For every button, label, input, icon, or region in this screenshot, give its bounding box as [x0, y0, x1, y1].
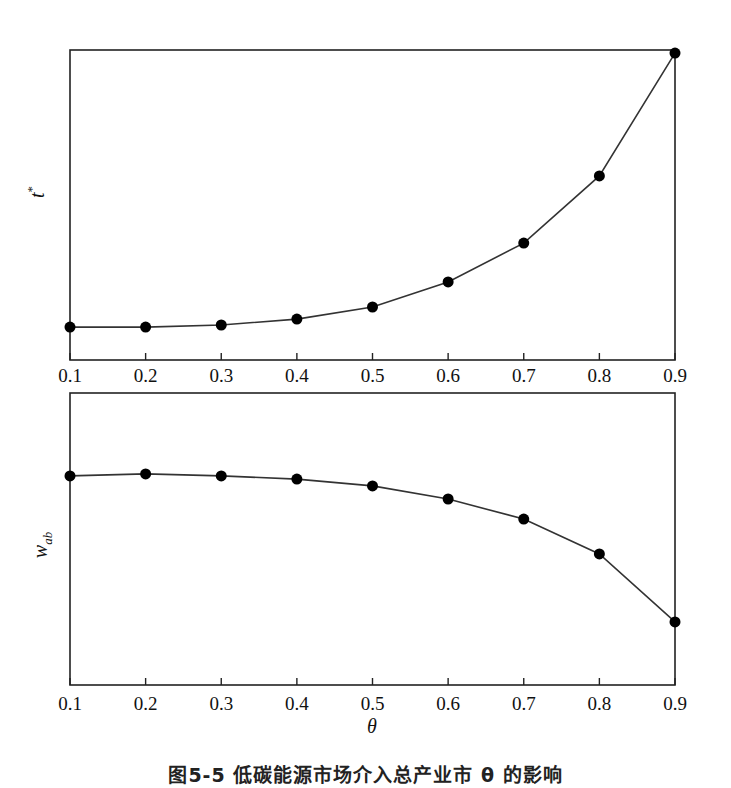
- data-point: [594, 170, 605, 181]
- x-tick-label: 0.8: [588, 693, 612, 714]
- data-point: [443, 276, 454, 287]
- x-axis-label: θ: [367, 715, 377, 737]
- data-point: [216, 470, 227, 481]
- data-point: [140, 468, 151, 479]
- x-tick-labels: 0.10.20.30.40.50.60.70.80.9: [58, 693, 687, 714]
- series-line: [70, 53, 675, 327]
- data-point: [670, 48, 681, 59]
- y-axis-label: t*: [24, 186, 48, 198]
- x-tick-label: 0.5: [361, 365, 385, 386]
- x-tick-label: 0.5: [361, 693, 385, 714]
- data-point: [518, 238, 529, 249]
- x-tick-label: 0.1: [58, 365, 82, 386]
- series-line: [70, 474, 675, 622]
- series-markers: [65, 48, 681, 333]
- plot-frame: [70, 393, 675, 685]
- x-tick-label: 0.4: [285, 693, 309, 714]
- x-ticks: [70, 678, 675, 685]
- top-panel-t-star: 0.10.20.30.40.50.60.70.80.9 t*: [24, 48, 687, 386]
- x-tick-label: 0.7: [512, 365, 536, 386]
- data-point: [216, 320, 227, 331]
- x-tick-label: 0.8: [588, 365, 612, 386]
- x-tick-label: 0.3: [209, 365, 233, 386]
- plot-frame: [70, 50, 675, 360]
- x-tick-label: 0.6: [436, 693, 460, 714]
- data-point: [443, 494, 454, 505]
- x-tick-labels: 0.10.20.30.40.50.60.70.80.9: [58, 365, 687, 386]
- figure: 0.10.20.30.40.50.60.70.80.9 t* 0.10.20.3…: [0, 0, 731, 788]
- x-tick-label: 0.2: [134, 693, 158, 714]
- y-axis-label: wab: [29, 531, 55, 558]
- data-point: [291, 314, 302, 325]
- data-point: [518, 514, 529, 525]
- data-point: [594, 548, 605, 559]
- x-tick-label: 0.7: [512, 693, 536, 714]
- data-point: [670, 616, 681, 627]
- x-tick-label: 0.9: [663, 365, 687, 386]
- data-point: [367, 302, 378, 313]
- x-tick-label: 0.9: [663, 693, 687, 714]
- x-tick-label: 0.3: [209, 693, 233, 714]
- x-tick-label: 0.1: [58, 693, 82, 714]
- bottom-panel-w-ab: 0.10.20.30.40.50.60.70.80.9 wab θ: [29, 393, 687, 737]
- x-tick-label: 0.6: [436, 365, 460, 386]
- x-ticks: [70, 353, 675, 360]
- data-point: [367, 480, 378, 491]
- data-point: [65, 322, 76, 333]
- data-point: [291, 474, 302, 485]
- x-tick-label: 0.4: [285, 365, 309, 386]
- data-point: [140, 322, 151, 333]
- figure-caption: 图5-5 低碳能源市场介入总产业市 θ 的影响: [0, 760, 731, 787]
- data-point: [65, 470, 76, 481]
- x-tick-label: 0.2: [134, 365, 158, 386]
